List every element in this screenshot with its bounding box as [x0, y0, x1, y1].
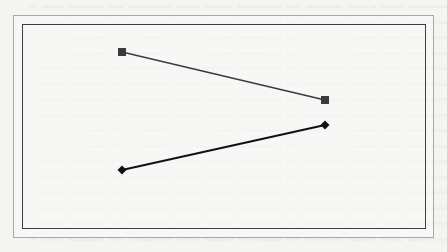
series-line [122, 125, 325, 170]
square-marker-icon [321, 96, 329, 104]
series-diamond [118, 121, 330, 175]
line-chart [0, 0, 447, 252]
series-square [118, 48, 329, 104]
series-line [122, 52, 325, 100]
diamond-marker-icon [321, 121, 330, 130]
square-marker-icon [118, 48, 126, 56]
diamond-marker-icon [118, 166, 127, 175]
